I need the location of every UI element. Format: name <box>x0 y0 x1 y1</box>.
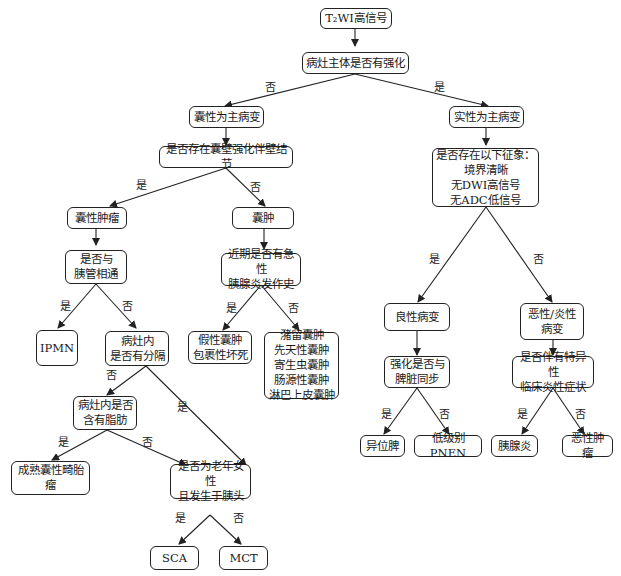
node-mct: MCT <box>219 546 268 570</box>
node-spleen-sync-question: 强化是否与 脾脏同步 <box>384 356 450 388</box>
node-imaging-signs-question: 是否存在以下征象： 境界清晰 无DWI高信号 无ADC低信号 <box>432 148 539 207</box>
edge-label-no: 否 <box>265 82 276 94</box>
node-other-cysts: 潴留囊肿 先天性囊肿 寄生虫囊肿 肠源性囊肿 淋巴上皮囊肿 <box>264 332 339 399</box>
node-benign-lesion: 良性病变 <box>384 303 450 331</box>
node-ipmn: IPMN <box>36 330 78 366</box>
edge-label-no: 否 <box>233 513 244 525</box>
edge-label-yes: 是 <box>381 409 392 421</box>
edge-label-no: 否 <box>106 370 117 382</box>
edge-label-no: 否 <box>288 303 299 315</box>
node-clinical-symptoms-question: 是否伴有特异性 临床炎性症状 <box>512 356 594 388</box>
node-pancreatitis-history-question: 近期是否有急性 胰腺炎发作史 <box>221 253 301 286</box>
edge-label-yes: 是 <box>429 254 440 266</box>
flowchart: T₂WI高信号 病灶主体是否有强化 囊性为主病变 是否存在囊壁强化伴壁结节 囊性… <box>0 0 621 576</box>
edge-label-no: 否 <box>575 409 586 421</box>
connector-lines <box>0 0 621 576</box>
node-malignant-tumor: 恶性肿瘤 <box>562 435 613 457</box>
node-elderly-female-question: 是否为老年女性 且发生于胰头 <box>170 464 251 499</box>
edge-label-no: 否 <box>122 301 133 313</box>
node-pseudocyst: 假性囊肿 包裹性坏死 <box>188 331 252 364</box>
node-malignant-inflammatory-lesion: 恶性/炎性 病变 <box>520 303 584 340</box>
node-lesion-enhancement: 病灶主体是否有强化 <box>302 52 409 74</box>
node-pancreatitis: 胰腺炎 <box>491 435 538 457</box>
node-t2wi-high-signal: T₂WI高信号 <box>320 8 392 29</box>
edge-label-yes: 是 <box>175 513 186 525</box>
node-cystic-tumor: 囊性肿瘤 <box>67 207 127 229</box>
node-solid-lesion: 实性为主病变 <box>449 106 524 128</box>
node-sca: SCA <box>150 546 199 570</box>
edge-label-no: 否 <box>250 182 261 194</box>
node-mature-cystic-teratoma: 成熟囊性畸胎瘤 <box>11 461 90 495</box>
node-low-grade-pnen: 低级别PNEN <box>414 435 482 457</box>
node-ectopic-spleen: 异位脾 <box>360 435 405 457</box>
edge-label-yes: 是 <box>177 402 188 414</box>
edge-label-yes: 是 <box>60 301 71 313</box>
edge-label-yes: 是 <box>58 437 69 449</box>
node-septa-question: 病灶内 是否有分隔 <box>105 331 169 366</box>
edge-label-yes: 是 <box>434 82 445 94</box>
edge-label-no: 否 <box>533 254 544 266</box>
edge-label-yes: 是 <box>517 409 528 421</box>
node-cyst: 囊肿 <box>232 207 294 229</box>
edge-label-yes: 是 <box>136 180 147 192</box>
node-cystic-lesion: 囊性为主病变 <box>189 106 264 128</box>
node-wall-enhancement-question: 是否存在囊壁强化伴壁结节 <box>159 146 293 168</box>
node-duct-communication-question: 是否与 胰管相通 <box>65 250 127 284</box>
edge-label-no: 否 <box>142 437 153 449</box>
edge-label-no: 否 <box>439 409 450 421</box>
edge-label-yes: 是 <box>226 303 237 315</box>
node-fat-content-question: 病灶内是否 含有脂肪 <box>73 396 137 430</box>
